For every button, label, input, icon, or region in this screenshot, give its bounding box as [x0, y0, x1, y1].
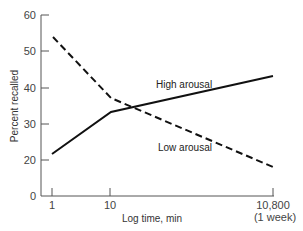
x-axis: 1 10 10,800 (1 week) Log time, min — [41, 188, 296, 224]
y-tick-60: 60 — [24, 9, 36, 21]
chart: 60 50 40 30 20 0 Percent recalled 1 10 1… — [0, 0, 303, 231]
y-axis-label: Percent recalled — [9, 70, 20, 142]
y-tick-0: 0 — [30, 190, 36, 202]
x-tick-10: 10 — [104, 199, 116, 211]
x-tick-10800: 10,800 — [256, 199, 290, 211]
annotation-high-arousal: High arousal — [156, 79, 212, 90]
y-tick-20: 20 — [24, 154, 36, 166]
y-axis: 60 50 40 30 20 0 Percent recalled — [9, 9, 49, 202]
x-tick-1: 1 — [49, 199, 55, 211]
x-axis-label: Log time, min — [122, 213, 182, 224]
y-tick-30: 30 — [24, 118, 36, 130]
x-tick-sublabel: (1 week) — [254, 211, 296, 223]
y-tick-50: 50 — [24, 45, 36, 57]
y-tick-40: 40 — [24, 82, 36, 94]
annotation-low-arousal: Low arousal — [158, 142, 212, 153]
